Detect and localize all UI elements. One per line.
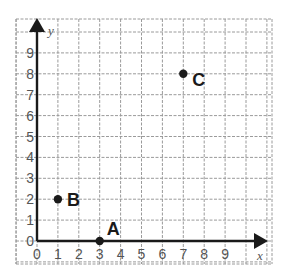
x-axis-arrow-icon xyxy=(254,233,268,249)
x-tick-label: 3 xyxy=(96,246,104,262)
x-tick-label: 0 xyxy=(33,246,41,262)
x-axis-label: x xyxy=(256,248,263,263)
y-tick-label: 9 xyxy=(26,45,34,61)
x-tick-label: 5 xyxy=(138,246,146,262)
y-tick-label: 7 xyxy=(26,87,34,103)
y-axis-arrow-icon xyxy=(29,18,45,32)
x-tick-label: 7 xyxy=(179,246,187,262)
y-axis-label: y xyxy=(46,23,54,38)
point-label-b: B xyxy=(67,190,80,210)
y-tick-label: 0 xyxy=(26,233,34,249)
point-label-c: C xyxy=(192,70,205,90)
y-tick-label: 2 xyxy=(26,191,34,207)
coordinate-plane: 01234567890123456789 ABC x y xyxy=(0,0,285,274)
y-tick-label: 1 xyxy=(26,212,34,228)
x-tick-label: 4 xyxy=(117,246,125,262)
x-tick-label: 2 xyxy=(75,246,83,262)
point-a xyxy=(96,237,104,245)
x-tick-label: 1 xyxy=(54,246,62,262)
y-tick-label: 4 xyxy=(26,149,34,165)
point-label-a: A xyxy=(107,219,120,239)
y-tick-label: 6 xyxy=(26,108,34,124)
x-tick-label: 9 xyxy=(221,246,229,262)
point-b xyxy=(54,195,62,203)
grid xyxy=(16,19,272,264)
x-tick-label: 8 xyxy=(200,246,208,262)
point-c xyxy=(179,70,187,78)
y-tick-label: 3 xyxy=(26,170,34,186)
y-tick-label: 8 xyxy=(26,66,34,82)
y-tick-label: 5 xyxy=(26,129,34,145)
x-tick-label: 6 xyxy=(159,246,167,262)
